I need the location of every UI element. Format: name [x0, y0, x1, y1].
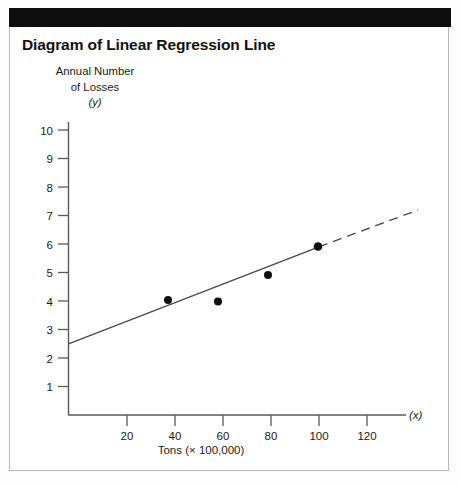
data-point-2	[214, 298, 222, 306]
x-axis-variable: (x)	[409, 409, 423, 421]
y-tick-label-6: 6	[47, 239, 53, 251]
x-tick-label-40: 40	[169, 430, 182, 442]
figure-container: Diagram of Linear Regression Line Annual…	[0, 0, 460, 486]
x-tick-label-100: 100	[309, 430, 328, 442]
y-tick-label-2: 2	[47, 353, 53, 365]
y-tick-label-4: 4	[47, 296, 54, 308]
y-axis-tick-labels: 10 9 8 7 6 5 4 3 2 1	[40, 125, 53, 394]
data-points	[164, 242, 322, 305]
y-tick-label-8: 8	[47, 182, 53, 194]
y-tick-label-1: 1	[47, 381, 53, 393]
x-tick-label-60: 60	[217, 430, 230, 442]
regression-line	[69, 247, 320, 344]
data-point-1	[164, 296, 172, 304]
y-tick-label-7: 7	[47, 210, 53, 222]
data-point-4	[314, 242, 323, 251]
x-tick-label-120: 120	[357, 430, 376, 442]
y-tick-label-9: 9	[47, 153, 53, 165]
y-tick-label-5: 5	[47, 267, 53, 279]
x-tick-label-80: 80	[265, 430, 278, 442]
x-axis-tick-labels: 20 40 60 80 100 120	[121, 430, 377, 442]
y-axis-ticks	[58, 130, 69, 387]
y-tick-label-10: 10	[40, 125, 53, 137]
x-axis-ticks	[127, 415, 367, 426]
plot-area: 10 9 8 7 6 5 4 3 2 1 20 40 60 80 100 120	[0, 0, 460, 486]
data-point-3	[264, 271, 272, 279]
regression-line-extension	[319, 210, 418, 247]
x-axis-title: Tons (× 100,000)	[79, 444, 323, 456]
x-tick-label-20: 20	[121, 430, 134, 442]
y-tick-label-3: 3	[47, 324, 53, 336]
